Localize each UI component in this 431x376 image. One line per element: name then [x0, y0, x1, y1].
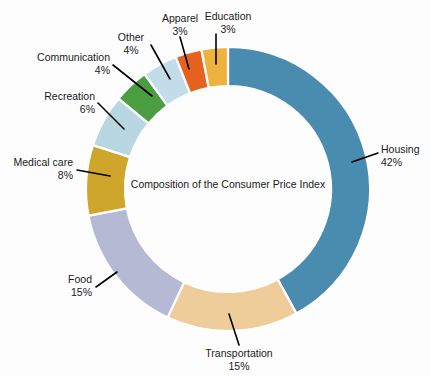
- label-medical-care-name: Medical care: [13, 156, 73, 168]
- label-transportation-name: Transportation: [205, 347, 272, 359]
- label-medical-care-pct: 8%: [58, 169, 73, 181]
- label-communication-name: Communication: [37, 51, 110, 63]
- label-apparel-name: Apparel: [162, 12, 198, 24]
- chart-center-caption: Composition of the Consumer Price Index: [131, 178, 326, 190]
- label-apparel-pct: 3%: [172, 25, 187, 37]
- consumer-price-index-donut-chart: Housing 42%Transportation 15%Food 15%Med…: [0, 0, 431, 376]
- label-other-name: Other: [118, 31, 145, 43]
- donut-chart-figure: Housing 42%Transportation 15%Food 15%Med…: [0, 0, 431, 376]
- label-other-pct: 4%: [123, 44, 138, 56]
- label-housing-name: Housing: [381, 143, 420, 155]
- label-transportation-pct: 15%: [228, 360, 249, 372]
- label-education-pct: 3%: [220, 23, 235, 35]
- label-food-pct: 15%: [71, 286, 92, 298]
- label-food-name: Food: [68, 273, 92, 285]
- label-communication-pct: 4%: [95, 64, 110, 76]
- label-recreation-pct: 6%: [80, 103, 95, 115]
- label-housing-pct: 42%: [381, 156, 402, 168]
- label-recreation-name: Recreation: [44, 90, 95, 102]
- label-education-name: Education: [205, 10, 252, 22]
